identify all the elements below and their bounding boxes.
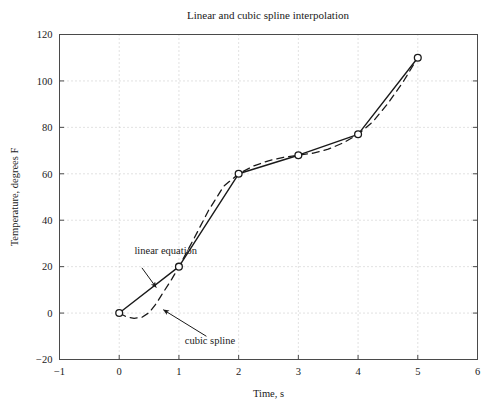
data-point-marker — [116, 310, 123, 317]
x-tick-label: −1 — [54, 366, 65, 377]
data-point-marker — [414, 54, 421, 61]
y-tick-label: 20 — [42, 261, 53, 272]
chart-figure: Linear and cubic spline interpolation −1… — [0, 0, 504, 411]
y-tick-label: 120 — [37, 29, 53, 40]
x-tick-label: 2 — [236, 366, 241, 377]
y-axis-label: Temperature, degrees F — [9, 148, 20, 247]
y-tick-label: 0 — [47, 308, 52, 319]
y-tick-label: 80 — [42, 122, 53, 133]
data-point-marker — [295, 152, 302, 159]
data-point-marker — [176, 263, 183, 270]
x-tick-label: 4 — [355, 366, 361, 377]
y-tick-label: 100 — [37, 76, 53, 87]
data-point-marker — [235, 170, 242, 177]
x-tick-label: 0 — [117, 366, 122, 377]
x-tick-label: 1 — [176, 366, 181, 377]
annotation-label-cubic-spline: cubic spline — [185, 335, 236, 346]
annotation-label-linear-equation: linear equation — [134, 245, 197, 256]
x-tick-label: 5 — [415, 366, 420, 377]
y-tick-label: −20 — [36, 354, 52, 365]
chart-canvas: Linear and cubic spline interpolation −1… — [0, 0, 504, 411]
data-point-marker — [355, 131, 362, 138]
y-tick-label: 40 — [42, 215, 53, 226]
x-axis-label: Time, s — [253, 388, 284, 399]
chart-title: Linear and cubic spline interpolation — [187, 9, 349, 21]
x-tick-label: 3 — [296, 366, 301, 377]
y-tick-label: 60 — [42, 169, 53, 180]
figure-background — [0, 0, 504, 411]
x-tick-label: 6 — [475, 366, 480, 377]
